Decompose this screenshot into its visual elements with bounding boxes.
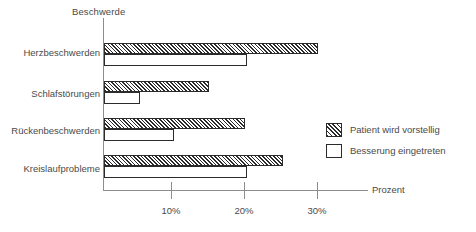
bar-chart: Beschwerde Prozent 10% 20% 30% Herzbesch… bbox=[0, 0, 476, 232]
bar-herzbeschwerden-patient-wird-vorstellig bbox=[104, 43, 318, 54]
x-axis-tick-30 bbox=[317, 182, 318, 199]
chart-legend: Patient wird vorstellig Besserung einget… bbox=[326, 119, 446, 161]
x-axis-tick-label-30: 30% bbox=[307, 205, 326, 216]
category-label-text: Herzbeschwerden bbox=[23, 47, 100, 58]
category-label-herzbeschwerden: Herzbeschwerden bbox=[0, 47, 100, 59]
category-label-text: Rückenbeschwerden bbox=[11, 125, 100, 136]
bar-rueckenbeschwerden-besserung-eingetreten bbox=[104, 129, 174, 141]
category-label-text: Schlafstörungen bbox=[31, 88, 100, 99]
x-axis-line bbox=[103, 190, 368, 191]
legend-item-besserung-eingetreten: Besserung eingetreten bbox=[326, 140, 446, 161]
category-label-rueckenbeschwerden: Rückenbeschwerden bbox=[0, 125, 100, 137]
category-label-schlafstoerungen: Schlafstörungen bbox=[0, 88, 100, 100]
x-axis-tick-20 bbox=[244, 182, 245, 199]
legend-label: Besserung eingetreten bbox=[350, 145, 446, 156]
bar-schlafstoerungen-besserung-eingetreten bbox=[104, 92, 140, 104]
category-label-text: Kreislaufprobleme bbox=[23, 163, 100, 174]
y-axis-title: Beschwerde bbox=[72, 6, 125, 17]
legend-swatch-hatched-icon bbox=[326, 123, 342, 137]
x-axis-tick-label-10: 10% bbox=[161, 205, 180, 216]
bar-herzbeschwerden-besserung-eingetreten bbox=[104, 54, 247, 66]
legend-item-patient-wird-vorstellig: Patient wird vorstellig bbox=[326, 119, 446, 140]
bar-kreislaufprobleme-besserung-eingetreten bbox=[104, 166, 247, 178]
legend-swatch-outline-icon bbox=[326, 144, 342, 158]
bar-schlafstoerungen-patient-wird-vorstellig bbox=[104, 81, 209, 92]
x-axis-tick-10 bbox=[171, 182, 172, 199]
x-axis-title: Prozent bbox=[372, 184, 405, 195]
category-label-kreislaufprobleme: Kreislaufprobleme bbox=[0, 163, 100, 175]
legend-label: Patient wird vorstellig bbox=[350, 124, 440, 135]
x-axis-tick-label-20: 20% bbox=[234, 205, 253, 216]
bar-rueckenbeschwerden-patient-wird-vorstellig bbox=[104, 118, 245, 129]
bar-kreislaufprobleme-patient-wird-vorstellig bbox=[104, 155, 283, 166]
